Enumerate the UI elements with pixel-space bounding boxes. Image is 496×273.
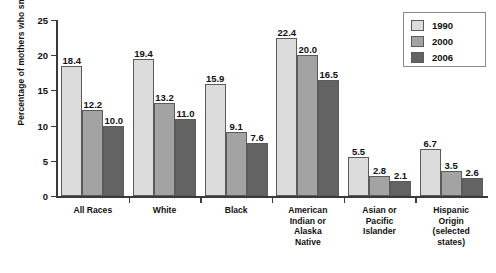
category-label-line: Indian or xyxy=(272,216,344,227)
bar-value-label: 13.2 xyxy=(155,92,174,103)
bar-value-label: 3.5 xyxy=(445,160,458,171)
y-tick-mark xyxy=(51,20,56,21)
legend-label: 1990 xyxy=(432,21,453,31)
bar-value-label: 7.6 xyxy=(251,132,264,143)
bar-group: 15.99.17.6 xyxy=(205,20,268,196)
bar-value-label: 5.5 xyxy=(352,146,365,157)
bar[interactable]: 19.4 xyxy=(133,59,154,196)
bar[interactable]: 11.0 xyxy=(175,119,196,196)
y-tick-label: 10 xyxy=(22,120,48,131)
category-label: White xyxy=(129,205,201,216)
category-label: HispanicOrigin(selectedstates) xyxy=(415,205,487,247)
y-axis-line xyxy=(56,20,58,197)
bar[interactable]: 6.7 xyxy=(420,149,441,196)
category-label-line: Alaska xyxy=(272,226,344,237)
x-axis-tick xyxy=(129,197,130,203)
x-axis-tick xyxy=(344,197,345,203)
category-label-line: Hispanic xyxy=(415,205,487,216)
bar-value-label: 10.0 xyxy=(105,115,124,126)
legend-label: 2006 xyxy=(432,53,453,63)
bar[interactable]: 16.5 xyxy=(318,80,339,196)
category-label-line: Pacific xyxy=(344,216,416,227)
y-tick-label: 5 xyxy=(22,155,48,166)
bar[interactable]: 12.2 xyxy=(82,110,103,196)
legend-swatch xyxy=(411,52,424,63)
y-tick-mark xyxy=(51,126,56,127)
bar-group: 5.52.82.1 xyxy=(348,20,411,196)
bar-value-label: 15.9 xyxy=(206,73,225,84)
bar-group: 19.413.211.0 xyxy=(133,20,196,196)
legend: 199020002006 xyxy=(403,12,486,67)
category-label-line: Origin xyxy=(415,216,487,227)
y-tick-label: 0 xyxy=(22,191,48,202)
legend-label: 2000 xyxy=(432,37,453,47)
bar[interactable]: 2.8 xyxy=(369,176,390,196)
legend-item[interactable]: 2000 xyxy=(411,34,485,49)
bar-value-label: 9.1 xyxy=(230,121,243,132)
bar[interactable]: 2.6 xyxy=(462,178,483,196)
bar-group: 18.412.210.0 xyxy=(61,20,124,196)
category-label: Black xyxy=(200,205,272,216)
bar-value-label: 22.4 xyxy=(278,27,297,38)
bar[interactable]: 9.1 xyxy=(226,132,247,196)
x-axis-tick xyxy=(200,197,201,203)
bar[interactable]: 5.5 xyxy=(348,157,369,196)
y-tick-label: 20 xyxy=(22,50,48,61)
bar[interactable]: 13.2 xyxy=(154,103,175,196)
legend-swatch xyxy=(411,20,424,31)
bar[interactable]: 3.5 xyxy=(441,171,462,196)
category-label-line: Black xyxy=(200,205,272,216)
category-label-line: All Races xyxy=(57,205,129,216)
bar-group: 22.420.016.5 xyxy=(276,20,339,196)
bar-value-label: 6.7 xyxy=(424,138,437,149)
bar-value-label: 2.8 xyxy=(373,165,386,176)
y-tick-label: 15 xyxy=(22,85,48,96)
category-label-line: Asian or xyxy=(344,205,416,216)
bar[interactable]: 7.6 xyxy=(247,143,268,197)
y-tick-mark xyxy=(51,90,56,91)
category-label-line: states) xyxy=(415,237,487,248)
x-axis-tick xyxy=(415,197,416,203)
y-tick-mark xyxy=(51,196,56,197)
y-tick-mark xyxy=(51,161,56,162)
bar-value-label: 2.1 xyxy=(394,170,407,181)
bar[interactable]: 22.4 xyxy=(276,38,297,196)
category-label-line: White xyxy=(129,205,201,216)
bar-value-label: 19.4 xyxy=(134,48,153,59)
category-label-line: Native xyxy=(272,237,344,248)
bar-chart: Percentage of mothers who smoked 0510152… xyxy=(0,0,496,273)
x-axis-tick xyxy=(272,197,273,203)
bar[interactable]: 2.1 xyxy=(390,181,411,196)
bar-value-label: 18.4 xyxy=(63,55,82,66)
bar-value-label: 12.2 xyxy=(84,99,103,110)
y-tick-label: 25 xyxy=(22,15,48,26)
bar[interactable]: 20.0 xyxy=(297,55,318,196)
bar[interactable]: 15.9 xyxy=(205,84,226,196)
bar-value-label: 11.0 xyxy=(177,108,195,119)
category-label-line: American xyxy=(272,205,344,216)
bar-value-label: 20.0 xyxy=(299,44,318,55)
y-tick-mark xyxy=(51,55,56,56)
legend-swatch xyxy=(411,36,424,47)
legend-item[interactable]: 1990 xyxy=(411,18,485,33)
category-label: AmericanIndian orAlaskaNative xyxy=(272,205,344,247)
bar-value-label: 16.5 xyxy=(320,69,339,80)
bar-value-label: 2.6 xyxy=(466,167,479,178)
category-label-line: Islander xyxy=(344,226,416,237)
bar[interactable]: 10.0 xyxy=(103,126,124,196)
bar[interactable]: 18.4 xyxy=(61,66,82,196)
category-label-line: (selected xyxy=(415,226,487,237)
category-label: Asian orPacificIslander xyxy=(344,205,416,237)
legend-item[interactable]: 2006 xyxy=(411,50,485,65)
category-label: All Races xyxy=(57,205,129,216)
